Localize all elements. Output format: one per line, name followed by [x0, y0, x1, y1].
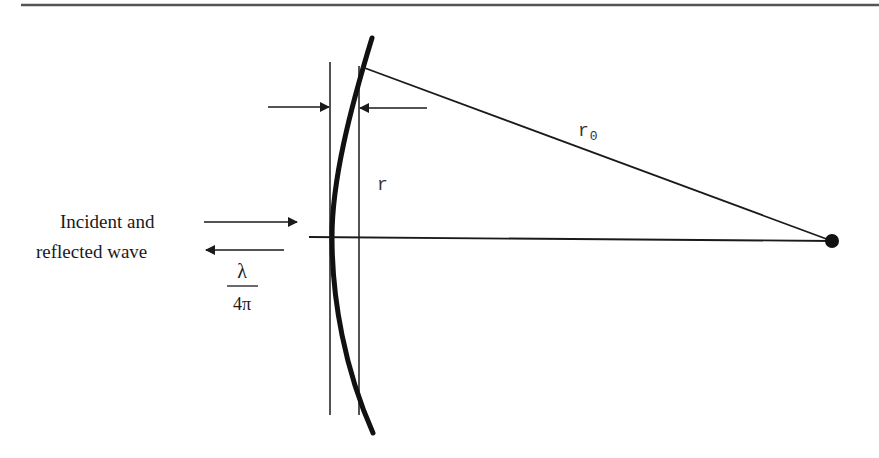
reflected-label: reflected wave — [36, 241, 147, 262]
r0-label-subscript: 0 — [590, 129, 598, 144]
r0-label: r0 — [578, 121, 598, 144]
r0-label-main: r — [578, 121, 589, 141]
lambda-symbol: λ — [237, 260, 247, 282]
incident-label: Incident and — [60, 211, 155, 232]
r-label: r — [377, 175, 388, 195]
wavefront-diagram: Incident and reflected wave λ 4π r r0 — [0, 0, 879, 458]
four-pi-denominator: 4π — [233, 294, 251, 314]
focal-point-dot — [825, 234, 839, 248]
reflecting-surface-curve — [332, 38, 373, 433]
radius-r0-line — [362, 67, 832, 241]
optical-axis — [309, 237, 832, 241]
